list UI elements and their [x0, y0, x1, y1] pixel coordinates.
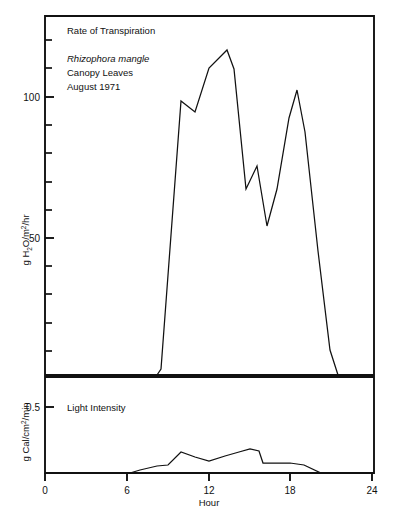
figure-canvas: 100 50 g H2O/m2/hr Rate of Transpiration…: [0, 0, 395, 509]
xtick-label-18: 18: [284, 485, 296, 496]
figure-background: [0, 0, 395, 509]
y2-label-prefix: g Cal/cm: [20, 424, 31, 462]
bottom-panel-title: Light Intensity: [67, 402, 126, 413]
y-label-prefix: g H: [20, 251, 31, 266]
xtick-label-12: 12: [203, 485, 215, 496]
top-panel-y-axis-label: g H2O/m2/hr: [20, 214, 33, 265]
xtick-label-0: 0: [42, 485, 48, 496]
top-panel-title: Rate of Transpiration: [67, 25, 155, 36]
svg-text:g H2O/m2/hr: g H2O/m2/hr: [20, 214, 33, 265]
x-axis-label: Hour: [199, 497, 220, 508]
svg-text:g Cal/cm2/min: g Cal/cm2/min: [20, 402, 32, 461]
transpiration-figure: 100 50 g H2O/m2/hr Rate of Transpiration…: [0, 0, 395, 509]
canopy-leaves-label: Canopy Leaves: [67, 67, 133, 78]
xtick-label-6: 6: [124, 485, 130, 496]
bottom-panel-y-axis-label: g Cal/cm2/min: [20, 402, 32, 461]
y-label-tail: /hr: [20, 214, 31, 225]
y-label-suffix: O/m: [20, 229, 31, 247]
xtick-label-24: 24: [366, 485, 378, 496]
species-name: Rhizophora mangle: [67, 53, 149, 64]
date-label: August 1971: [67, 81, 120, 92]
ytick-label-100: 100: [23, 92, 40, 103]
y2-label-tail: /min: [20, 402, 31, 420]
